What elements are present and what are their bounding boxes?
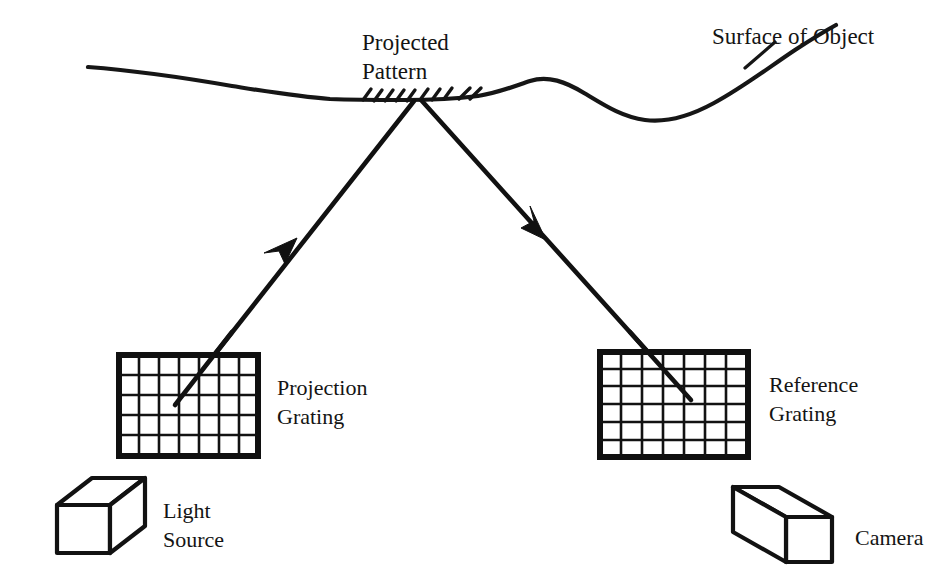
projection-grating-label-line2: Grating xyxy=(277,404,344,429)
reference-grating-label-line1: Reference xyxy=(769,372,858,397)
reference-grating-label-line2: Grating xyxy=(769,401,836,426)
camera-front-face xyxy=(786,517,832,562)
projection-grating-label-line1: Projection xyxy=(277,375,367,400)
illumination-ray-arrowhead xyxy=(264,238,297,264)
surface-of-object-label: Surface of Object xyxy=(712,24,875,49)
reference-grating[interactable] xyxy=(600,352,748,457)
light-source-icon[interactable] xyxy=(57,478,145,553)
light-source-label-line1: Light xyxy=(163,498,211,523)
camera-icon[interactable] xyxy=(733,487,832,562)
projected-pattern-label-line1: Projected xyxy=(362,30,449,55)
observation-ray xyxy=(253,0,691,400)
reference-grating-lines xyxy=(600,352,748,457)
light-source-front-face xyxy=(57,505,110,553)
camera-label: Camera xyxy=(855,525,924,550)
light-source-label-line2: Source xyxy=(163,527,224,552)
projected-pattern-label-line2: Pattern xyxy=(362,59,428,84)
optical-setup-diagram: Projected Pattern Surface of Object Proj… xyxy=(0,0,937,587)
observation-ray-arrowhead xyxy=(521,206,546,240)
figure-canvas: Projected Pattern Surface of Object Proj… xyxy=(0,0,937,587)
projection-grating[interactable] xyxy=(119,355,258,456)
